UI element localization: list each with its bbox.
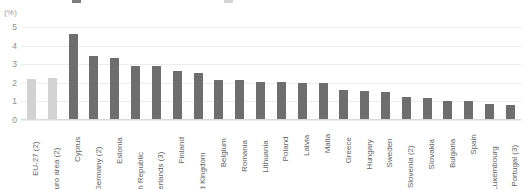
x-axis-category-label: United Kingdom (198, 96, 207, 153)
x-label-slot: Belgium (208, 122, 229, 188)
x-axis-category-label: EU-27 (2) (31, 107, 40, 142)
x-axis-category-label: Latvia (302, 113, 311, 134)
x-label-slot: Slovakia (417, 122, 438, 188)
x-axis-category-label: Netherlands (3) (156, 96, 165, 151)
y-axis-tick-labels: 543210 (0, 27, 17, 120)
bar-slot (333, 27, 354, 119)
x-axis-category-label: Romania (240, 108, 249, 140)
x-label-slot: Luxembourg (479, 122, 500, 188)
x-label-slot: Romania (229, 122, 250, 188)
x-label-slot: Finland (167, 122, 188, 188)
x-axis-category-label: Belgium (219, 110, 228, 139)
legend-swatch-country (72, 0, 81, 3)
x-label-slot: Sweden (375, 122, 396, 188)
y-axis-tick: 3 (3, 59, 17, 69)
bar-slot (375, 27, 396, 119)
x-axis-category-label: Luxembourg (490, 102, 499, 146)
y-axis-tick: 2 (3, 78, 17, 88)
x-axis-category-label: Poland (281, 112, 290, 137)
x-label-slot: Malta (313, 122, 334, 188)
x-label-slot: Portugal (3) (500, 122, 521, 188)
bar-slot (104, 27, 125, 119)
x-axis-category-labels: EU-27 (2)Euro area (2)CyprusGermany (2)E… (21, 122, 521, 188)
x-label-slot: Netherlands (3) (146, 122, 167, 188)
bar-chart: (%) 543210 EU-27 (2)Euro area (2)CyprusG… (0, 0, 527, 189)
y-axis-tick: 4 (3, 41, 17, 51)
bar-slot (458, 27, 479, 119)
x-label-slot: Greece (333, 122, 354, 188)
x-label-slot: Latvia (292, 122, 313, 188)
bar-slot (354, 27, 375, 119)
x-label-slot: Euro area (2) (42, 122, 63, 188)
y-axis-tick: 5 (3, 22, 17, 32)
x-label-slot: Estonia (104, 122, 125, 188)
x-axis-category-label: Bulgaria (448, 109, 457, 138)
x-axis-category-label: Finland (177, 111, 186, 137)
x-axis-category-label: Spain (469, 114, 478, 134)
bar-slot (208, 27, 229, 119)
x-label-slot: Lithuania (250, 122, 271, 188)
x-label-slot: Hungary (354, 122, 375, 188)
bar-slot (292, 27, 313, 119)
x-label-slot: Bulgaria (438, 122, 459, 188)
x-axis-category-label: Lithuania (261, 108, 270, 140)
x-label-slot: Slovenia (2) (396, 122, 417, 188)
y-axis-unit-label: (%) (4, 8, 17, 17)
x-axis-category-label: Euro area (2) (52, 100, 61, 147)
x-axis-category-label: Czech Republic (136, 96, 145, 152)
x-label-slot: Spain (458, 122, 479, 188)
x-axis-category-label: Hungary (365, 109, 374, 139)
x-label-slot: Germany (2) (83, 122, 104, 188)
bar-slot (250, 27, 271, 119)
bar-slot (313, 27, 334, 119)
bar-slot (417, 27, 438, 119)
x-label-slot: EU-27 (2) (21, 122, 42, 188)
x-axis-category-label: Portugal (3) (510, 103, 519, 145)
x-label-slot: Cyprus (63, 122, 84, 188)
legend-swatch-aggregate (224, 0, 233, 3)
y-axis-tick: 1 (3, 96, 17, 106)
x-axis-category-label: Malta (323, 114, 332, 134)
bar-slot (63, 27, 84, 119)
bar-slot (229, 27, 250, 119)
bar-slot (271, 27, 292, 119)
legend-remnant (0, 0, 527, 5)
bar-slot (21, 27, 42, 119)
y-axis-tick: 0 (3, 115, 17, 125)
x-label-slot: United Kingdom (188, 122, 209, 188)
x-axis-category-label: Sweden (385, 110, 394, 139)
x-axis-category-label: Slovakia (427, 109, 436, 139)
x-axis-category-label: Estonia (115, 111, 124, 138)
x-label-slot: Czech Republic (125, 122, 146, 188)
bar[interactable] (69, 34, 78, 119)
x-axis-category-label: Greece (344, 111, 353, 137)
bar-slot (167, 27, 188, 119)
x-axis-category-label: Germany (2) (94, 102, 103, 147)
bar-slot (438, 27, 459, 119)
x-axis-category-label: Slovenia (2) (406, 103, 415, 146)
x-axis-category-label: Cyprus (73, 111, 82, 136)
x-label-slot: Poland (271, 122, 292, 188)
